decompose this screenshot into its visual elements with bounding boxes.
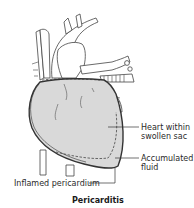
label-accumulated-fluid: Accumulated fluid <box>141 154 193 172</box>
label-inflamed-pericardium: Inflamed pericardium <box>14 179 100 188</box>
label-line: fluid <box>141 163 193 172</box>
label-line: Accumulated <box>141 154 193 163</box>
label-line: Heart within <box>141 123 190 132</box>
pericarditis-diagram <box>0 0 194 208</box>
figure-caption: Pericarditis <box>72 196 124 205</box>
label-heart-within-swollen-sac: Heart within swollen sac <box>141 123 190 141</box>
label-line: swollen sac <box>141 132 190 141</box>
